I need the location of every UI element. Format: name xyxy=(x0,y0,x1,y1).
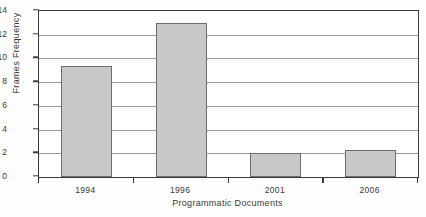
bar-1994 xyxy=(61,66,112,177)
y-axis-tick-label: 2 xyxy=(0,147,7,157)
bar-1996 xyxy=(156,23,207,177)
y-axis-tick-mark xyxy=(33,104,39,105)
y-axis-tick-mark xyxy=(33,33,39,34)
bar-2006 xyxy=(345,150,396,177)
x-axis-tick-mark xyxy=(38,177,39,183)
y-axis-tick-mark xyxy=(33,80,39,81)
y-axis-tick-mark xyxy=(33,9,39,10)
y-axis-tick-label: 14 xyxy=(0,5,7,15)
y-axis-tick-mark xyxy=(33,152,39,153)
y-axis-tick-label: 10 xyxy=(0,52,7,62)
y-axis-tick-mark xyxy=(33,128,39,129)
y-axis-tick-label: 8 xyxy=(0,76,7,86)
x-axis-tick-label: 2006 xyxy=(330,185,410,195)
y-axis-tick-label: 6 xyxy=(0,100,7,110)
gridline xyxy=(39,35,418,36)
x-axis-tick-mark xyxy=(417,177,418,183)
y-axis-tick-label: 0 xyxy=(0,171,7,181)
plot-area xyxy=(38,10,419,178)
x-axis-tick-label: 1994 xyxy=(45,185,125,195)
x-axis-tick-label: 2001 xyxy=(235,185,315,195)
y-axis-title: Frames Frequency xyxy=(11,0,21,123)
gridline xyxy=(39,58,418,59)
x-axis-tick-label: 1996 xyxy=(140,185,220,195)
x-axis-tick-mark xyxy=(228,177,229,183)
x-axis-title: Programmatic Documents xyxy=(38,198,417,208)
y-axis-tick-mark xyxy=(33,57,39,58)
bar-2001 xyxy=(250,153,301,177)
x-axis-tick-mark xyxy=(133,177,134,183)
x-axis-tick-mark xyxy=(322,177,323,183)
bar-chart-figure: Frames Frequency Programmatic Documents … xyxy=(0,0,426,217)
y-axis-tick-label: 4 xyxy=(0,124,7,134)
y-axis-tick-label: 12 xyxy=(0,29,7,39)
